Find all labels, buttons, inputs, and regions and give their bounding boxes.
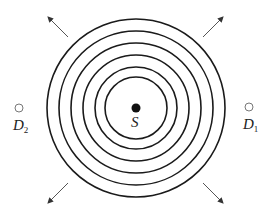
source-dot — [132, 104, 141, 113]
detector-label: D1 — [242, 116, 258, 134]
detector-circle-icon — [245, 103, 253, 111]
detector-label: D2 — [12, 117, 28, 135]
diagram-canvas: S D2D1 — [0, 0, 270, 214]
arrow-up-right-icon — [203, 17, 223, 37]
arrow-down-right-icon — [203, 183, 223, 203]
arrow-down-left-icon — [48, 183, 68, 203]
detector-circle-icon — [15, 104, 23, 112]
wavefront-diagram: S D2D1 — [0, 0, 270, 214]
detector-d2: D2 — [12, 104, 28, 135]
detector-d1: D1 — [242, 103, 258, 134]
arrow-up-left-icon — [48, 17, 68, 37]
source-label: S — [131, 114, 139, 130]
